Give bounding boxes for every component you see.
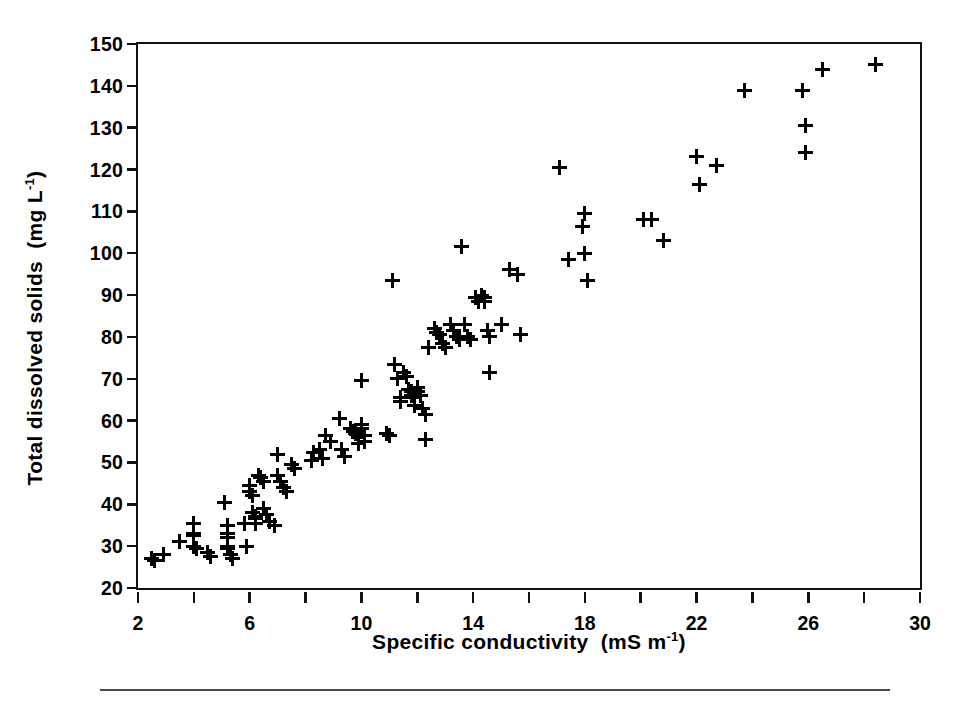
data-point-marker bbox=[482, 329, 497, 344]
data-point-marker bbox=[463, 332, 478, 347]
data-point-marker bbox=[259, 507, 274, 522]
data-point-marker bbox=[393, 390, 408, 405]
data-point-marker bbox=[385, 273, 400, 288]
data-point-marker bbox=[390, 371, 405, 386]
data-point-marker bbox=[418, 432, 433, 447]
data-point-marker bbox=[237, 516, 252, 531]
data-point-marker bbox=[245, 505, 260, 520]
data-point-marker bbox=[577, 206, 592, 221]
data-point-marker bbox=[186, 516, 201, 531]
data-point-marker bbox=[251, 468, 266, 483]
data-point-marker bbox=[354, 421, 369, 436]
data-point-marker bbox=[186, 539, 201, 554]
data-point-marker bbox=[577, 246, 592, 261]
y-axis-tick bbox=[127, 545, 138, 548]
data-point-marker bbox=[200, 545, 215, 560]
data-point-marker bbox=[477, 294, 492, 309]
data-point-marker bbox=[399, 369, 414, 384]
data-point-marker bbox=[248, 511, 263, 526]
y-axis-title: Total dissolved solids (mg L-1) bbox=[23, 48, 47, 608]
data-point-marker bbox=[220, 541, 235, 556]
data-point-marker bbox=[452, 332, 467, 347]
data-point-marker bbox=[510, 267, 525, 282]
data-point-marker bbox=[304, 453, 319, 468]
data-point-marker bbox=[449, 329, 464, 344]
y-axis-tick-label: 20 bbox=[101, 577, 123, 600]
y-axis-tick-label: 120 bbox=[90, 158, 123, 181]
data-point-marker bbox=[220, 526, 235, 541]
data-point-marker bbox=[357, 434, 372, 449]
data-point-marker bbox=[460, 329, 475, 344]
y-axis-tick-label: 140 bbox=[90, 74, 123, 97]
data-point-marker bbox=[407, 390, 422, 405]
y-axis-tick bbox=[127, 294, 138, 297]
data-point-marker bbox=[427, 321, 442, 336]
data-point-marker bbox=[318, 428, 333, 443]
y-axis-units-suffix: ) bbox=[23, 171, 46, 178]
y-axis-tick-label: 110 bbox=[91, 200, 123, 223]
data-point-marker bbox=[471, 294, 486, 309]
y-axis-title-main: Total dissolved solids bbox=[23, 261, 46, 485]
y-axis-tick-label: 50 bbox=[101, 451, 123, 474]
y-axis-tick-label: 90 bbox=[101, 284, 123, 307]
y-axis-tick-label: 150 bbox=[90, 33, 123, 56]
data-point-marker bbox=[343, 421, 358, 436]
y-axis-tick bbox=[127, 419, 138, 422]
y-axis-tick bbox=[127, 210, 138, 213]
data-point-marker bbox=[242, 478, 257, 493]
x-axis-minor-tick bbox=[304, 592, 307, 603]
x-axis-units-suffix: ) bbox=[679, 630, 686, 653]
data-point-marker bbox=[552, 160, 567, 175]
data-point-marker bbox=[407, 398, 422, 413]
data-point-marker bbox=[354, 373, 369, 388]
x-axis-units-prefix: (mS m bbox=[601, 630, 667, 653]
y-axis-tick bbox=[127, 85, 138, 88]
data-point-marker bbox=[482, 365, 497, 380]
data-point-marker bbox=[351, 430, 366, 445]
data-point-marker bbox=[656, 233, 671, 248]
data-point-marker bbox=[795, 83, 810, 98]
y-axis-units-exponent: -1 bbox=[22, 178, 37, 190]
data-point-marker bbox=[270, 447, 285, 462]
caption-separator-rule bbox=[100, 689, 890, 691]
data-point-marker bbox=[248, 509, 263, 524]
data-point-marker bbox=[220, 530, 235, 545]
y-axis-tick bbox=[127, 461, 138, 464]
y-axis-tick-label: 30 bbox=[101, 535, 123, 558]
data-point-marker bbox=[323, 434, 338, 449]
data-point-marker bbox=[279, 484, 294, 499]
y-axis-tick-label: 40 bbox=[101, 493, 123, 516]
y-axis-tick bbox=[127, 252, 138, 255]
data-point-marker bbox=[248, 516, 263, 531]
data-point-marker bbox=[262, 514, 277, 529]
y-axis-tick-label: 60 bbox=[101, 409, 123, 432]
y-axis-tick bbox=[127, 168, 138, 171]
data-point-marker bbox=[256, 501, 271, 516]
x-axis-minor-tick bbox=[751, 592, 754, 603]
data-point-marker bbox=[410, 384, 425, 399]
data-point-marker bbox=[457, 317, 472, 332]
data-point-marker bbox=[147, 553, 162, 568]
data-point-marker bbox=[217, 495, 232, 510]
data-point-marker bbox=[709, 158, 724, 173]
data-point-marker bbox=[815, 62, 830, 77]
data-point-marker bbox=[480, 323, 495, 338]
data-point-marker bbox=[798, 118, 813, 133]
data-point-marker bbox=[387, 357, 402, 372]
data-point-marker bbox=[189, 541, 204, 556]
data-point-marker bbox=[332, 411, 347, 426]
data-point-marker bbox=[513, 327, 528, 342]
data-point-marker bbox=[256, 474, 271, 489]
y-axis-tick bbox=[127, 503, 138, 506]
x-axis-tick bbox=[695, 592, 698, 603]
data-point-marker bbox=[270, 468, 285, 483]
data-point-marker bbox=[186, 528, 201, 543]
data-point-marker bbox=[438, 340, 453, 355]
x-axis-tick bbox=[472, 592, 475, 603]
x-axis-tick bbox=[248, 592, 251, 603]
data-point-marker bbox=[421, 340, 436, 355]
data-point-marker bbox=[494, 317, 509, 332]
data-point-marker bbox=[239, 539, 254, 554]
data-point-marker bbox=[253, 470, 268, 485]
data-point-marker bbox=[245, 488, 260, 503]
